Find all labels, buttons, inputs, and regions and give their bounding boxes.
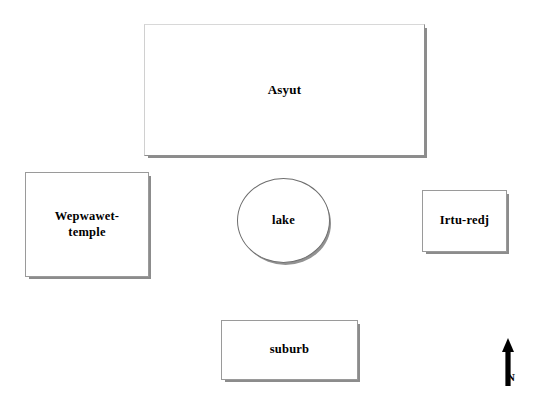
map-canvas: Asyut Wepwawet- temple lake Irtu-redj su… (0, 0, 541, 403)
map-zone-irtu-redj[interactable]: Irtu-redj (422, 190, 507, 252)
map-zone-asyut[interactable]: Asyut (144, 24, 425, 156)
map-zone-irtu-redj-label: Irtu-redj (440, 213, 489, 228)
map-zone-suburb-label: suburb (270, 342, 309, 357)
map-zone-suburb[interactable]: suburb (221, 320, 358, 380)
north-arrow-icon (488, 336, 528, 392)
map-zone-asyut-label: Asyut (268, 82, 302, 98)
map-zone-lake-label: lake (272, 213, 295, 228)
map-zone-lake[interactable]: lake (237, 178, 330, 263)
map-zone-wepwawet-temple-label: Wepwawet- temple (55, 209, 119, 240)
north-label: N (507, 371, 515, 383)
map-zone-wepwawet-temple[interactable]: Wepwawet- temple (25, 172, 149, 277)
